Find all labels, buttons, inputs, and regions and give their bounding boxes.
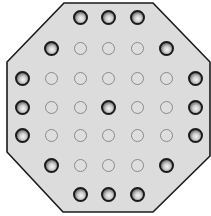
peg[interactable]: [188, 128, 203, 143]
empty-hole[interactable]: [74, 101, 87, 114]
empty-hole[interactable]: [102, 159, 115, 172]
empty-hole[interactable]: [74, 159, 87, 172]
peg[interactable]: [188, 100, 203, 115]
empty-hole[interactable]: [45, 129, 58, 142]
empty-hole[interactable]: [45, 101, 58, 114]
peg[interactable]: [130, 187, 145, 202]
empty-hole[interactable]: [131, 101, 144, 114]
empty-hole[interactable]: [131, 42, 144, 55]
peg[interactable]: [188, 71, 203, 86]
empty-hole[interactable]: [160, 72, 173, 85]
peg[interactable]: [101, 10, 116, 25]
empty-hole[interactable]: [102, 129, 115, 142]
empty-hole[interactable]: [131, 72, 144, 85]
empty-hole[interactable]: [74, 129, 87, 142]
peg[interactable]: [130, 10, 145, 25]
empty-hole[interactable]: [160, 129, 173, 142]
empty-hole[interactable]: [131, 159, 144, 172]
peg[interactable]: [15, 100, 30, 115]
peg[interactable]: [44, 41, 59, 56]
empty-hole[interactable]: [102, 42, 115, 55]
peg[interactable]: [73, 187, 88, 202]
peg[interactable]: [15, 128, 30, 143]
empty-hole[interactable]: [74, 72, 87, 85]
empty-hole[interactable]: [160, 101, 173, 114]
peg[interactable]: [44, 158, 59, 173]
empty-hole[interactable]: [74, 42, 87, 55]
peg[interactable]: [159, 158, 174, 173]
peg[interactable]: [101, 187, 116, 202]
empty-hole[interactable]: [131, 129, 144, 142]
empty-hole[interactable]: [102, 72, 115, 85]
peg[interactable]: [15, 71, 30, 86]
empty-hole[interactable]: [45, 72, 58, 85]
peg[interactable]: [73, 10, 88, 25]
peg[interactable]: [159, 41, 174, 56]
peg[interactable]: [101, 100, 116, 115]
